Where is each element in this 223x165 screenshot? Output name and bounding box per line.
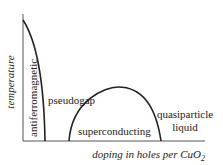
antiferromagnetic-label: antiferromagnetic	[27, 59, 39, 137]
y-axis-label: temperature	[4, 55, 16, 108]
x-axis-label-subscript: 2	[201, 154, 205, 163]
pseudogap-label: pseudogap	[48, 94, 96, 106]
superconducting-label: superconducting	[78, 125, 151, 137]
phase-diagram: temperature antiferromagnetic pseudogap …	[0, 0, 223, 165]
x-axis-label-main: doping in holes per CuO	[92, 148, 201, 160]
x-axis-label: doping in holes per CuO2	[92, 148, 205, 163]
quasiparticle-label: quasiparticle	[157, 108, 213, 120]
liquid-label: liquid	[172, 121, 198, 133]
